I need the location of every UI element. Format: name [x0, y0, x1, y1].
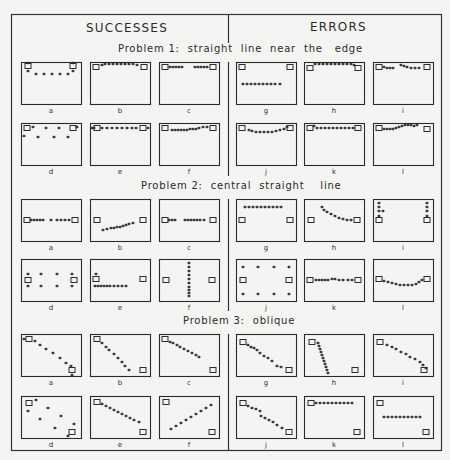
dot-marker	[338, 63, 341, 65]
dot-marker	[426, 206, 429, 208]
panel-2-g	[237, 200, 297, 242]
square-marker	[26, 401, 32, 406]
dot-marker	[353, 64, 356, 66]
dot-marker	[71, 285, 74, 287]
problem-3-title: Problem 3: oblique	[183, 315, 295, 326]
square-marker	[377, 401, 383, 406]
dot-marker	[206, 126, 209, 128]
dot-marker	[271, 360, 274, 362]
dot-marker	[323, 209, 326, 211]
dot-marker	[190, 416, 193, 418]
dot-marker	[403, 416, 406, 418]
dot-marker	[406, 66, 409, 68]
dot-marker	[64, 219, 67, 221]
panel-1-j	[237, 124, 297, 166]
panel-1-c	[160, 63, 220, 105]
dot-marker	[39, 418, 42, 420]
dot-marker	[100, 285, 103, 287]
dot-marker	[101, 127, 104, 129]
dot-marker	[71, 374, 74, 376]
dot-marker	[113, 409, 116, 411]
dot-marker	[197, 66, 200, 68]
dot-marker	[418, 67, 421, 69]
square-marker	[210, 126, 216, 131]
panel-2-j	[237, 260, 297, 302]
panel-1-d	[22, 124, 82, 166]
dot-marker	[119, 226, 122, 228]
panel-label: b	[90, 107, 150, 115]
square-marker	[424, 218, 430, 223]
dot-marker	[121, 127, 124, 129]
dot-marker	[271, 131, 274, 133]
panel-1-a	[22, 62, 82, 105]
dot-marker	[126, 127, 129, 129]
square-marker	[240, 340, 246, 345]
dot-marker	[407, 284, 410, 286]
dot-marker	[348, 127, 351, 129]
dot-marker	[39, 344, 42, 346]
dot-marker	[334, 215, 337, 217]
dot-marker	[413, 125, 416, 127]
dot-marker	[128, 223, 131, 225]
dot-marker	[334, 63, 337, 65]
dot-marker	[346, 219, 349, 221]
dot-marker	[106, 127, 109, 129]
dot-marker	[330, 213, 333, 215]
dot-marker	[383, 66, 386, 68]
dot-marker	[199, 219, 202, 221]
dot-marker	[324, 279, 327, 281]
panel-2-i	[374, 200, 434, 242]
panel-1-e	[91, 124, 151, 166]
dot-marker	[392, 128, 395, 130]
dot-marker	[184, 219, 187, 221]
square-marker	[209, 278, 215, 283]
dot-marker	[418, 281, 421, 283]
panel-label: i	[373, 379, 433, 387]
square-marker	[286, 368, 292, 373]
panel-3-a	[22, 335, 82, 377]
panel-label: h	[304, 244, 364, 252]
dot-marker	[188, 278, 191, 280]
dot-marker	[386, 344, 389, 346]
dot-marker	[183, 348, 186, 350]
dot-marker	[415, 416, 418, 418]
dot-marker	[122, 225, 125, 227]
dot-marker	[193, 219, 196, 221]
panel-label: g	[236, 379, 296, 387]
square-marker	[162, 337, 168, 342]
square-marker	[163, 400, 169, 405]
square-marker	[423, 430, 429, 435]
dot-marker	[111, 127, 114, 129]
square-marker	[376, 277, 382, 282]
dot-marker	[326, 211, 329, 213]
dot-marker	[263, 131, 266, 133]
square-marker	[93, 277, 99, 282]
dot-marker	[392, 67, 395, 69]
dot-marker	[331, 402, 334, 404]
square-marker	[70, 126, 76, 131]
dot-marker	[340, 127, 343, 129]
dot-marker	[378, 215, 381, 217]
panel-3-k	[305, 397, 365, 439]
panel-3-g	[237, 335, 297, 377]
dot-marker	[188, 274, 191, 276]
square-marker	[72, 218, 78, 223]
dot-marker	[191, 352, 194, 354]
dot-marker	[210, 404, 213, 406]
panel-label: k	[304, 441, 364, 449]
dot-marker	[270, 83, 273, 85]
dot-marker	[400, 64, 403, 66]
dot-marker	[168, 219, 171, 221]
dot-marker	[330, 63, 333, 65]
dot-marker	[338, 279, 341, 281]
dot-marker	[138, 421, 141, 423]
dot-marker	[104, 63, 107, 65]
dot-marker	[288, 293, 291, 295]
dot-marker	[125, 415, 128, 417]
panel-1-k	[305, 124, 365, 166]
dot-marker	[263, 355, 266, 357]
panel-label: g	[236, 107, 296, 115]
dot-marker	[188, 262, 191, 264]
dot-marker	[315, 279, 318, 281]
dot-marker	[195, 128, 198, 130]
